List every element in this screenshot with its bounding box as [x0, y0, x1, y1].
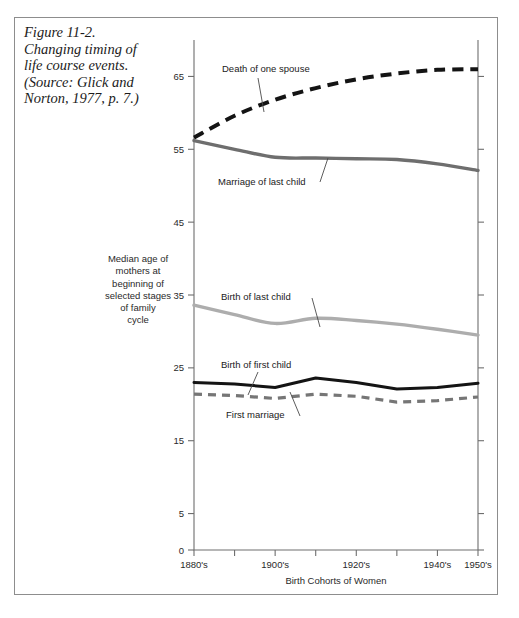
- y-axis-title-line-5: of family: [86, 302, 190, 314]
- y-axis-title-line-1: Median age of: [86, 253, 190, 265]
- y-axis-title-line-2: mothers at: [86, 265, 190, 277]
- page-artifact-text: [250, 601, 500, 613]
- y-axis-title: Median age of mothers at beginning of se…: [86, 253, 190, 327]
- caption-line-1: Figure 11-2.: [24, 24, 174, 41]
- figure-caption: Figure 11-2. Changing timing of life cou…: [24, 24, 174, 107]
- caption-line-3: life course events.: [24, 57, 174, 74]
- y-axis-title-line-4: selected stages: [86, 290, 190, 302]
- caption-line-5: Norton, 1977, p. 7.): [24, 90, 174, 107]
- caption-line-4: (Source: Glick and: [24, 74, 174, 91]
- caption-line-2: Changing timing of: [24, 41, 174, 58]
- y-axis-title-line-3: beginning of: [86, 278, 190, 290]
- y-axis-title-line-6: cycle: [86, 314, 190, 326]
